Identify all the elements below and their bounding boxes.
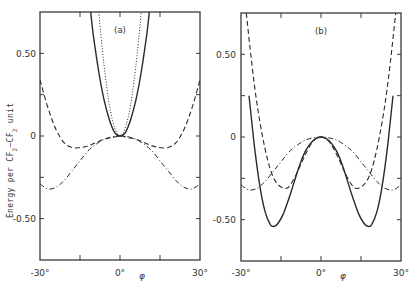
curve-dashed [40,80,200,148]
panel-b-label: (b) [315,26,327,36]
panel-a: (a) -30° 0° 30° φ 0.50 0 -0.50 Energy pe… [6,12,208,281]
panel-a-curves [40,12,200,189]
panel-b-ytick-top: 0.50 [216,50,236,60]
y-axis-label: Energy per CF2–CF2 unit [6,103,18,218]
curve-dash-dot [241,137,401,190]
panel-b-ytick-bottom: -0.50 [213,215,237,225]
panel-a-xtick-zero: 0° [115,268,125,278]
panel-b-xtick-zero: 0° [316,268,326,278]
panel-a-xtick-max: 30° [192,268,208,278]
figure: (a) -30° 0° 30° φ 0.50 0 -0.50 Energy pe… [0,0,416,284]
panel-a-ytick-bottom: -0.50 [13,214,37,224]
panel-a-xtick-min: -30° [30,268,49,278]
panel-a-label: (a) [114,25,126,35]
panel-b-ytick-zero: 0 [230,132,236,142]
panel-a-ytick-top: 0.50 [16,49,36,59]
panel-b: (b) -30° 0° 30° φ 0.50 0 -0.50 [213,13,409,281]
panel-a-ytick-zero: 0 [30,131,36,141]
curve-dash-dot [40,136,200,189]
panel-b-xtick-min: -30° [231,268,250,278]
panel-b-curves [241,13,401,227]
curve-dashed [246,13,395,189]
curve-solid [249,96,393,227]
panel-b-xtick-max: 30° [393,268,409,278]
panel-b-xlabel: φ [340,271,346,281]
panel-a-xlabel: φ [139,271,145,281]
